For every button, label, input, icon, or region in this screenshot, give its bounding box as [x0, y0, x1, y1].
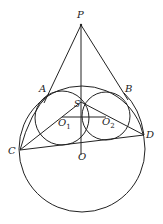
label-o2-main: O [102, 116, 110, 127]
line-cd [20, 135, 144, 150]
label-o1: O1 [58, 118, 71, 131]
label-o1-sub: 1 [66, 123, 70, 131]
geometry-diagram: P A B C D O S O1 O2 [0, 0, 163, 224]
label-o: O [78, 152, 86, 162]
label-c: C [8, 146, 16, 156]
label-s: S [74, 100, 80, 109]
diagram-svg [0, 0, 163, 224]
label-a: A [39, 84, 46, 94]
label-o2: O2 [102, 117, 115, 130]
label-o1-main: O [58, 117, 66, 128]
label-o2-sub: 2 [110, 122, 114, 130]
label-b: B [125, 84, 132, 94]
label-p: P [77, 10, 84, 20]
label-d: D [146, 130, 154, 140]
line-pb [81, 25, 128, 100]
